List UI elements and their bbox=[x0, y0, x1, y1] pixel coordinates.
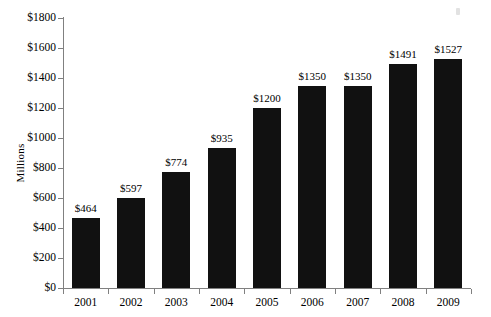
scan-artifact bbox=[456, 8, 460, 15]
y-axis-tick bbox=[58, 168, 63, 169]
y-axis-tick bbox=[58, 198, 63, 199]
y-axis-tick bbox=[58, 228, 63, 229]
y-axis-tick bbox=[58, 78, 63, 79]
bar bbox=[298, 86, 326, 289]
bar bbox=[253, 108, 281, 288]
bar bbox=[208, 148, 236, 288]
y-axis-tick bbox=[58, 288, 63, 289]
x-axis-tick bbox=[471, 289, 472, 294]
y-axis-tick bbox=[58, 48, 63, 49]
y-axis-tick bbox=[58, 258, 63, 259]
bar-value-label: $935 bbox=[192, 133, 252, 144]
bar-value-label: $774 bbox=[146, 157, 206, 168]
y-axis-tick bbox=[58, 108, 63, 109]
x-axis-tick bbox=[154, 289, 155, 294]
bar bbox=[117, 198, 145, 288]
bar bbox=[72, 218, 100, 288]
x-axis-tick bbox=[63, 289, 64, 294]
bar bbox=[389, 64, 417, 288]
x-axis-tick bbox=[380, 289, 381, 294]
x-axis-tick-label: 2009 bbox=[418, 296, 478, 308]
y-axis-tick bbox=[58, 18, 63, 19]
bar bbox=[434, 59, 462, 288]
bar-chart: Millions $0$200$400$600$800$1000$1200$14… bbox=[0, 0, 491, 317]
x-axis-tick bbox=[108, 289, 109, 294]
x-axis-tick bbox=[335, 289, 336, 294]
bar-value-label: $1527 bbox=[418, 44, 478, 55]
bar-value-label: $1200 bbox=[237, 93, 297, 104]
plot-area: $4642001$5972002$7742003$9352004$1200200… bbox=[0, 0, 491, 317]
bar bbox=[162, 172, 190, 288]
x-axis-tick bbox=[244, 289, 245, 294]
x-axis-tick bbox=[426, 289, 427, 294]
bar-value-label: $597 bbox=[101, 183, 161, 194]
bar bbox=[344, 86, 372, 289]
y-axis-tick bbox=[58, 138, 63, 139]
x-axis-tick bbox=[199, 289, 200, 294]
x-axis-tick bbox=[290, 289, 291, 294]
bar-value-label: $1350 bbox=[328, 71, 388, 82]
bar-value-label: $464 bbox=[56, 203, 116, 214]
